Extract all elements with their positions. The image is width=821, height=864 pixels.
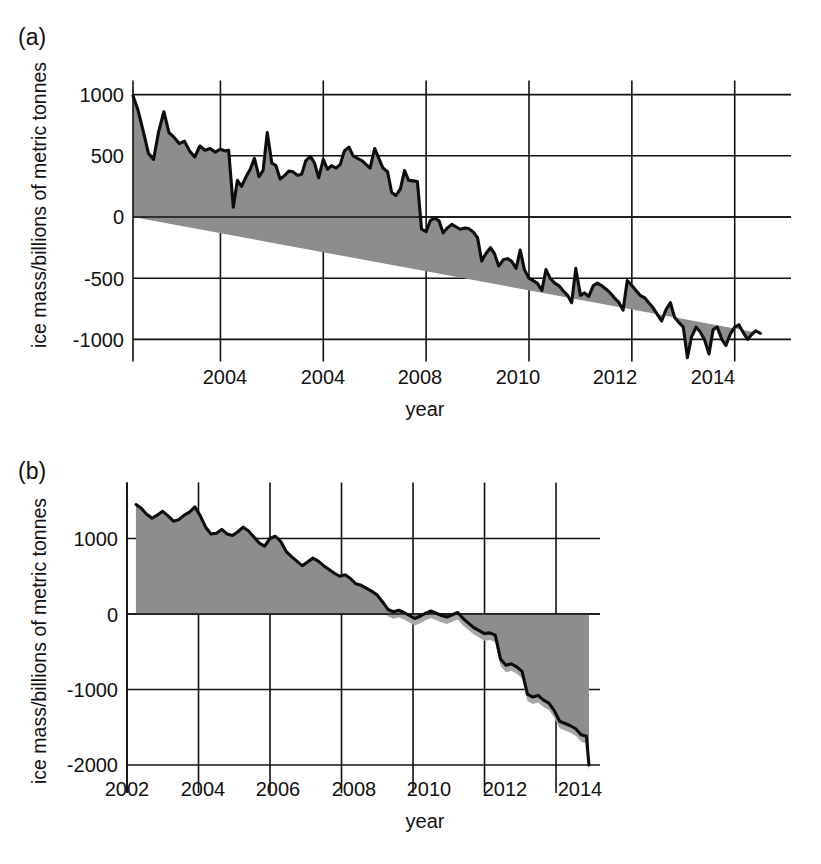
panel-b-xtick-4: 2010	[389, 778, 469, 801]
panel-a-xtick-1: 2004	[283, 366, 363, 389]
panel-b-xtick-3: 2008	[314, 778, 394, 801]
panel-b-xtick-6: 2014	[540, 778, 620, 801]
panel-a-xtick-4: 2012	[575, 366, 655, 389]
panel-a-xtick-0: 2004	[185, 366, 265, 389]
panel-a: (a) ice mass/billions of metric tonnes 1…	[0, 0, 821, 432]
panel-a-xtick-2: 2008	[380, 366, 460, 389]
panel-a-x-axis-title: year	[380, 398, 470, 421]
panel-a-plot-area	[0, 0, 821, 400]
panel-a-xtick-5: 2014	[673, 366, 753, 389]
panel-b: (b) ice mass/billions of metric tonnes 1…	[0, 432, 821, 864]
panel-a-xtick-3: 2010	[478, 366, 558, 389]
panel-b-x-axis-title: year	[380, 810, 470, 833]
panel-b-xtick-1: 2004	[163, 778, 243, 801]
panel-b-plot-area	[0, 432, 821, 832]
panel-b-xtick-5: 2012	[465, 778, 545, 801]
panel-b-xtick-0: 2002	[87, 778, 167, 801]
panel-b-xtick-2: 2006	[238, 778, 318, 801]
area-fill	[136, 505, 589, 765]
